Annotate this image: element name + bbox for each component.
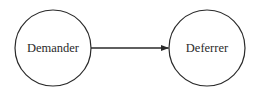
node-demander: Demander xyxy=(15,10,91,86)
deferrer-label: Deferrer xyxy=(186,41,229,55)
demander-label: Demander xyxy=(27,41,80,55)
node-deferrer: Deferrer xyxy=(169,10,245,86)
diagram-canvas: Demander Deferrer xyxy=(0,0,260,94)
